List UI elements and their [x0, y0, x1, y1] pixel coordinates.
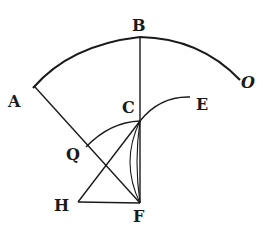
- curve-c-e: [140, 97, 190, 121]
- label-o: O: [241, 73, 255, 92]
- diagram-canvas: A B C E O Q H F: [0, 0, 263, 229]
- label-b: B: [132, 16, 146, 35]
- label-f: F: [133, 207, 145, 226]
- label-h: H: [54, 196, 69, 215]
- label-a: A: [7, 92, 21, 111]
- label-q: Q: [66, 145, 80, 164]
- label-e: E: [196, 95, 208, 114]
- label-c: C: [122, 98, 135, 117]
- line-h-f: [78, 202, 140, 203]
- line-h-c: [78, 121, 140, 202]
- arc-a-b-o: [33, 37, 240, 88]
